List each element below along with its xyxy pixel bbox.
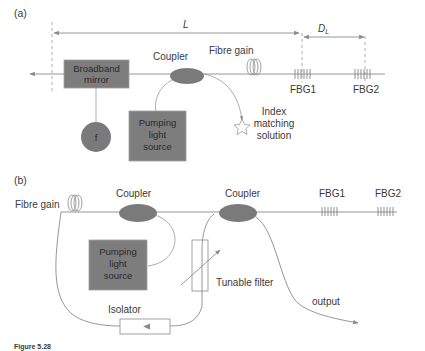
index-matching-label-2: matching	[254, 118, 295, 129]
index-matching-lead	[204, 74, 242, 120]
fibre-gain-b-label: Fibre gain	[15, 199, 59, 210]
isolator-label: Isolator	[108, 304, 141, 315]
fibre-gain-coil-a	[247, 59, 261, 75]
pump-a-label-1: Pumping	[139, 117, 177, 128]
panel-a: (a) L DL Broadband mirror f Coupler Pump…	[14, 7, 385, 161]
fbg2-b	[378, 207, 393, 216]
coupler-b-left	[119, 204, 157, 222]
fbg1-b	[322, 207, 337, 216]
panel-b: (b) Fibre gain Coupler Pumping light sou…	[14, 174, 402, 334]
coupler-b-right	[219, 204, 257, 222]
pump-b-label-3: source	[104, 270, 133, 281]
pump-b-label-1: Pumping	[99, 246, 137, 257]
pump-lead-a	[156, 80, 172, 112]
coupler-b-right-label: Coupler	[225, 188, 261, 199]
output-label: output	[312, 296, 340, 307]
dl-label: DL	[318, 23, 329, 35]
tunable-arrow	[181, 250, 220, 285]
fibre-gain-coil-b	[68, 195, 82, 211]
fbg2-b-label: FBG2	[375, 188, 402, 199]
fibre-laser-diagram: (a) L DL Broadband mirror f Coupler Pump…	[0, 0, 425, 351]
panel-a-label: (a)	[14, 7, 27, 19]
figure-caption: Figure 5.28	[14, 343, 51, 351]
tunable-filter-box	[192, 240, 208, 291]
tunable-filter-label: Tunable filter	[216, 277, 274, 288]
fbg1-a-label: FBG1	[290, 84, 317, 95]
index-matching-label-3: solution	[257, 130, 291, 141]
panel-b-label: (b)	[14, 174, 27, 186]
coupler-a-label: Coupler	[153, 51, 189, 62]
star-icon	[234, 119, 250, 135]
coupler-a	[170, 68, 204, 84]
fibre-gain-a-label: Fibre gain	[209, 45, 253, 56]
output-path	[256, 217, 358, 323]
pump-a-label-3: source	[143, 141, 172, 152]
coupler-b-left-label: Coupler	[116, 188, 152, 199]
pump-lead-b	[148, 215, 175, 266]
index-matching-label-1: Index	[262, 106, 286, 117]
pump-a-label-2: light	[149, 129, 167, 140]
broadband-mirror-label-1: Broadband	[73, 63, 119, 74]
f-label: f	[95, 132, 98, 143]
fbg1-b-label: FBG1	[319, 188, 346, 199]
broadband-mirror-label-2: mirror	[84, 74, 109, 85]
fbg2-a-label: FBG2	[353, 84, 380, 95]
pump-b-label-2: light	[109, 258, 127, 269]
l-label: L	[183, 19, 189, 30]
